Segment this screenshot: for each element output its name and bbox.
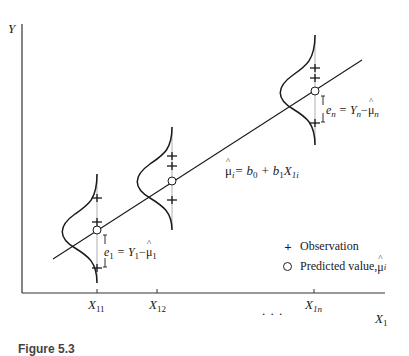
eq-x: X xyxy=(284,163,292,178)
res-eq: = Y xyxy=(114,245,135,259)
res-mu: μ xyxy=(146,246,152,258)
residual-label-1: e1 = Y1−μ1 xyxy=(104,246,157,261)
predicted-point-1 xyxy=(93,226,101,234)
distribution-group-n xyxy=(280,35,325,145)
tick-label-sub: 1n xyxy=(313,304,322,314)
legend-predicted-label: Predicted value, xyxy=(300,259,377,274)
legend-mu-sub: i xyxy=(384,262,387,272)
res-eq: = Y xyxy=(336,103,357,117)
legend-observation-label: Observation xyxy=(300,239,359,254)
x-tick-label-1n: X1n xyxy=(305,298,322,314)
res-mu-sub: n xyxy=(374,109,379,119)
res-minus: − xyxy=(139,245,146,259)
res-mu-sub: 1 xyxy=(152,251,157,261)
normal-curve-1 xyxy=(62,174,97,283)
eq-plus: + b xyxy=(258,163,280,178)
normal-curve-n xyxy=(280,35,315,145)
eq-x-sub: 1i xyxy=(292,170,299,180)
legend-observation: + Observation xyxy=(280,238,386,255)
x-tick-label-11: X11 xyxy=(88,298,105,314)
predicted-point-2 xyxy=(168,177,176,185)
x-axis-label-main: X xyxy=(375,311,383,326)
x-axis-label: X1 xyxy=(375,312,387,328)
y-axis-label: Y xyxy=(8,22,15,35)
tick-label-sub: 12 xyxy=(157,304,166,314)
x-axis-label-sub: 1 xyxy=(383,318,388,328)
predicted-point-n xyxy=(311,87,319,95)
res-mu: μ xyxy=(368,104,374,116)
tick-label-sub: 11 xyxy=(96,304,105,314)
legend-mu: μ xyxy=(377,260,383,275)
legend-predicted: Predicted value, μi xyxy=(280,258,386,275)
tick-label-main: X xyxy=(305,297,313,312)
distribution-group-2 xyxy=(137,127,177,230)
res-minus: − xyxy=(361,103,368,117)
x-tick-label-12: X12 xyxy=(149,298,166,314)
distribution-group-1 xyxy=(62,174,107,283)
tick-label-main: X xyxy=(88,297,96,312)
normal-curve-2 xyxy=(137,127,172,230)
residual-arrow-n xyxy=(321,96,325,122)
plus-icon: + xyxy=(280,239,296,255)
residual-label-n: en = Yn−μn xyxy=(326,104,379,119)
mu-hat: μ xyxy=(225,164,232,177)
legend: + Observation Predicted value, μi xyxy=(280,238,386,275)
regression-equation: μi= b0 + b1X1i xyxy=(225,164,299,180)
circle-icon xyxy=(283,262,292,271)
figure-caption: Figure 5.3 xyxy=(18,342,75,356)
ellipsis: . . . xyxy=(262,304,283,317)
eq-rhs: = b xyxy=(235,163,254,178)
tick-label-main: X xyxy=(149,297,157,312)
